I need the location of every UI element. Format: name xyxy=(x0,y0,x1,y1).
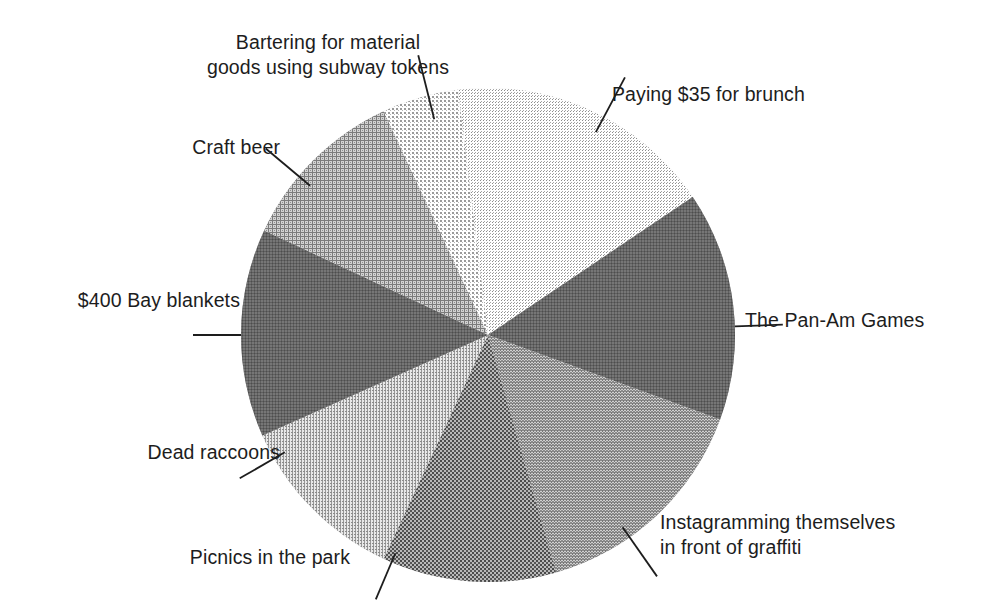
slice-label-bartering: Bartering for materialgoods using subway… xyxy=(178,30,478,80)
slice-label-instagramming-line2: in front of graffiti xyxy=(660,536,801,558)
slice-label-bartering-line2: goods using subway tokens xyxy=(207,56,449,78)
leader-line xyxy=(376,553,396,599)
leader-line xyxy=(623,527,657,576)
slice-label-dead-raccoons: Dead raccoons xyxy=(40,440,280,465)
slice-label-paying: Paying $35 for brunch xyxy=(612,82,912,107)
slice-label-bartering-line1: Bartering for material xyxy=(236,31,420,53)
pie-slices-group xyxy=(241,88,735,582)
pie-chart-figure: Bartering for materialgoods using subway… xyxy=(0,0,983,608)
slice-label-bay-blankets: $400 Bay blankets xyxy=(10,288,240,313)
slice-label-picnics: Picnics in the park xyxy=(60,545,350,570)
slice-label-instagramming-line1: Instagramming themselves xyxy=(660,511,895,533)
slice-label-instagramming: Instagramming themselvesin front of graf… xyxy=(660,510,980,560)
slice-label-panam: The Pan-Am Games xyxy=(745,308,983,333)
slice-label-craft-beer: Craft beer xyxy=(80,135,280,160)
